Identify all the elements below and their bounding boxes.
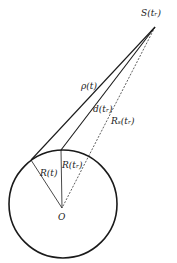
d-label: d(tᵣ) — [93, 104, 113, 114]
rs-label: Rₛ(tᵣ) — [110, 116, 135, 126]
origin-label: O — [58, 212, 66, 222]
source-label: S(tᵣ) — [141, 8, 161, 18]
r-tr-radius — [61, 150, 62, 208]
rho-label: ρ(t) — [80, 81, 97, 91]
d-line — [61, 27, 155, 150]
rs-dashed-line — [62, 27, 155, 208]
r-tr-label: R(tᵣ) — [61, 160, 83, 170]
r-t-label: R(t) — [39, 168, 58, 178]
rho-line — [31, 27, 155, 160]
geometry-diagram: S(tᵣ) ρ(t) d(tᵣ) Rₛ(tᵣ) R(t) R(tᵣ) O — [0, 0, 177, 263]
